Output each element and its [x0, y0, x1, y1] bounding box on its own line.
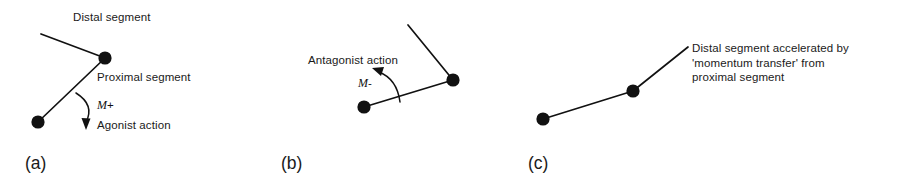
- moment-arrow-curve-a: [76, 93, 89, 122]
- label-moment-b: M-: [358, 76, 372, 91]
- panel-label-c: (c): [528, 152, 548, 174]
- moment-arrow-head-b: [372, 67, 384, 76]
- panel-b: Antagonist action M- (b): [280, 0, 528, 187]
- moment-sign-a: +: [107, 99, 114, 111]
- caption-line-2-c: 'momentum transfer' from: [692, 56, 849, 71]
- panel-c-diagram: [528, 0, 901, 187]
- proximal-segment-line-c: [543, 91, 633, 119]
- label-moment-a: M+: [97, 98, 114, 113]
- label-proximal-segment-a: Proximal segment: [97, 70, 191, 85]
- caption-line-3-c: proximal segment: [692, 70, 849, 85]
- endpoint-dot-b: [357, 100, 370, 113]
- moment-arrow-head-a: [82, 118, 91, 130]
- label-agonist-action-a: Agonist action: [97, 118, 171, 133]
- panel-label-a: (a): [25, 152, 46, 174]
- distal-segment-line-c: [633, 47, 688, 91]
- panel-c: Distal segment accelerated by 'momentum …: [528, 0, 901, 187]
- moment-symbol-a: M: [97, 98, 107, 112]
- label-distal-segment-a: Distal segment: [73, 10, 150, 25]
- joint-dot-a: [98, 51, 111, 64]
- moment-symbol-b: M: [358, 76, 368, 90]
- joint-dot-b: [446, 73, 459, 86]
- panel-label-b: (b): [281, 152, 302, 174]
- distal-segment-line-a: [41, 34, 105, 58]
- proximal-segment-line-b: [364, 80, 453, 107]
- label-antagonist-action-b: Antagonist action: [308, 53, 398, 68]
- caption-line-1-c: Distal segment accelerated by: [692, 41, 849, 56]
- moment-sign-b: -: [368, 77, 372, 89]
- panel-a: Distal segment Proximal segment M+ Agoni…: [0, 0, 280, 187]
- proximal-segment-line-a: [38, 58, 105, 122]
- endpoint-dot-c: [536, 112, 549, 125]
- biomechanics-figure: Distal segment Proximal segment M+ Agoni…: [0, 0, 901, 187]
- joint-dot-c: [626, 84, 639, 97]
- endpoint-dot-a: [31, 115, 44, 128]
- panel-b-diagram: [280, 0, 528, 187]
- distal-segment-line-b: [408, 25, 453, 80]
- label-caption-c: Distal segment accelerated by 'momentum …: [692, 41, 849, 85]
